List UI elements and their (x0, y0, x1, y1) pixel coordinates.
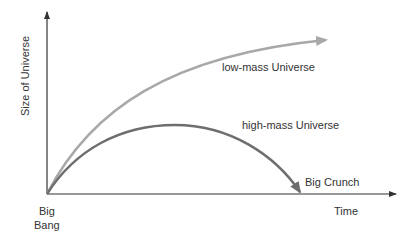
high-mass-curve (47, 125, 300, 194)
low-mass-label: low-mass Universe (222, 61, 315, 73)
high-mass-label: high-mass Universe (242, 119, 339, 131)
big-bang-line1: Big (34, 204, 60, 218)
x-axis-label: Time (334, 205, 358, 217)
big-crunch-label: Big Crunch (305, 176, 359, 188)
big-bang-line2: Bang (34, 218, 60, 232)
y-axis-label: Size of Universe (19, 31, 31, 121)
big-bang-label: Big Bang (34, 204, 60, 232)
